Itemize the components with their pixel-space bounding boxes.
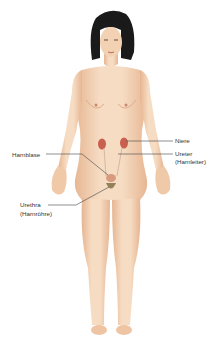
label-urethra-sub: (Harnröhre) [20,210,52,217]
left-hand [52,166,67,195]
right-hand [155,166,170,195]
label-harnblase: Harnblase [12,151,40,158]
label-ureter-sub: (Harnleiter) [175,158,206,165]
label-niere: Niere [175,137,190,144]
anatomy-figure [0,0,222,346]
left-kidney [98,139,106,150]
right-kidney [120,138,128,149]
right-leg [112,198,140,325]
left-leg [82,198,110,325]
label-urethra: Urethra [20,201,41,208]
label-ureter: Ureter [175,150,192,157]
bladder [106,174,116,182]
